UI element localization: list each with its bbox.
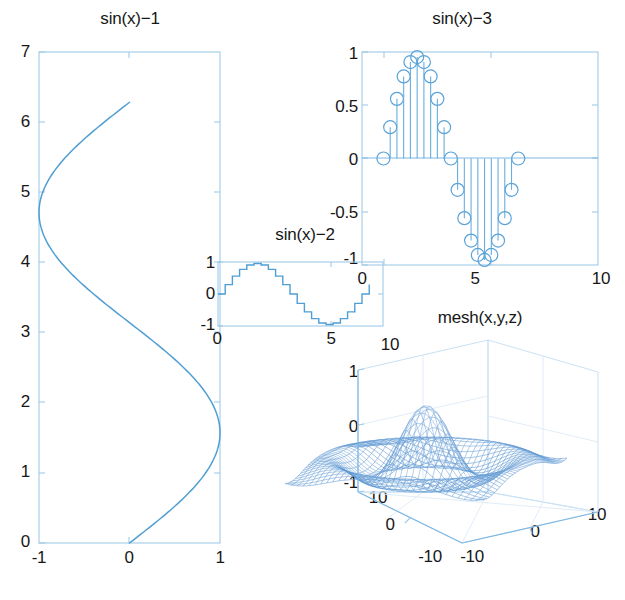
matlab-figure-canvas: sin(x)−1 7 6 5 4 3 2 1 0 -1 0 1 xyxy=(0,0,625,600)
subplot-mesh: mesh(x,y,z) 1 0 -1 10 10 0 -10 -10 0 10 xyxy=(330,300,625,600)
mesh-plot-area[interactable] xyxy=(330,300,625,600)
mesh-wire xyxy=(293,472,490,497)
